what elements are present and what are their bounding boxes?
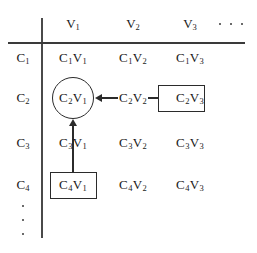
- cell-c1v3-vsub: 3: [199, 56, 204, 66]
- cell-c4v2-csub: 4: [128, 183, 133, 193]
- cell-c3v1-vsub: 1: [82, 141, 87, 151]
- row-ellipsis-dot-1: [22, 205, 24, 207]
- row-header-c1-label: C: [17, 50, 26, 65]
- cell-c4v2-c: C: [119, 177, 128, 192]
- cell-c1v3: C1V3: [176, 50, 204, 66]
- column-ellipsis-dot-1: [219, 23, 221, 25]
- cell-c1v2: C1V2: [119, 50, 147, 66]
- cell-c2v2: C2V2: [119, 90, 147, 106]
- row-header-c3: C3: [17, 135, 30, 151]
- cell-c3v1-csub: 3: [68, 141, 73, 151]
- cell-c1v3-v: V: [190, 50, 200, 65]
- cell-c3v3-vsub: 3: [199, 141, 204, 151]
- cell-c1v1-v: V: [73, 50, 83, 65]
- column-header-v2: V2: [126, 16, 140, 32]
- cell-c4v1-c: C: [59, 177, 68, 192]
- cell-c3v1: C3V1: [59, 135, 87, 151]
- row-header-c1: C1: [17, 50, 30, 66]
- arrow-c4v1-to-c2v1-head: [69, 119, 77, 126]
- cell-c2v3-v: V: [190, 90, 200, 105]
- arrow-c2v2-to-c2v1-shaft: [101, 97, 118, 99]
- cell-c1v1: C1V1: [59, 50, 87, 66]
- cell-c3v2: C3V2: [119, 135, 147, 151]
- cell-c1v2-c: C: [119, 50, 128, 65]
- cell-c4v2: C4V2: [119, 177, 147, 193]
- cell-c2v1: C2V1: [59, 90, 87, 106]
- row-ellipsis-dot-3: [22, 233, 24, 235]
- column-header-v3-label: V: [183, 16, 192, 31]
- cell-c4v1: C4V1: [59, 177, 87, 193]
- row-header-c2: C2: [17, 90, 30, 106]
- cell-c2v3-c: C: [176, 90, 185, 105]
- row-header-c2-label: C: [17, 90, 26, 105]
- cell-c1v2-csub: 1: [128, 56, 133, 66]
- cell-c4v3-v: V: [190, 177, 200, 192]
- vertical-divider: [41, 18, 43, 238]
- cell-c4v1-vsub: 1: [82, 183, 87, 193]
- column-ellipsis-dot-3: [241, 23, 243, 25]
- cell-c1v1-c: C: [59, 50, 68, 65]
- cell-c4v3: C4V3: [176, 177, 204, 193]
- cell-c4v2-vsub: 2: [142, 183, 147, 193]
- cell-c1v1-csub: 1: [68, 56, 73, 66]
- column-header-v2-label: V: [126, 16, 135, 31]
- cell-c2v2-vsub: 2: [142, 96, 147, 106]
- cell-c3v2-vsub: 2: [142, 141, 147, 151]
- cell-c3v2-c: C: [119, 135, 128, 150]
- row-header-c4-label: C: [17, 177, 26, 192]
- link-c2v3-to-c2v2: [148, 97, 158, 99]
- arrow-c2v2-to-c2v1-head: [95, 94, 102, 102]
- column-header-v1-sub: 1: [76, 22, 80, 32]
- cell-c1v3-c: C: [176, 50, 185, 65]
- cell-c4v1-v: V: [73, 177, 83, 192]
- column-header-v3: V3: [183, 16, 197, 32]
- row-header-c3-sub: 3: [25, 141, 29, 151]
- column-ellipsis-dot-2: [230, 23, 232, 25]
- cell-c1v1-vsub: 1: [82, 56, 87, 66]
- cell-c2v2-csub: 2: [128, 96, 133, 106]
- row-header-c3-label: C: [17, 135, 26, 150]
- row-header-c2-sub: 2: [25, 96, 29, 106]
- cell-c2v1-v: V: [73, 90, 83, 105]
- cell-c4v1-csub: 4: [68, 183, 73, 193]
- cell-c4v3-c: C: [176, 177, 185, 192]
- cell-c2v1-c: C: [59, 90, 68, 105]
- cell-c2v2-c: C: [119, 90, 128, 105]
- cell-c1v3-csub: 1: [185, 56, 190, 66]
- cell-c3v3: C3V3: [176, 135, 204, 151]
- cell-c3v3-v: V: [190, 135, 200, 150]
- row-header-c4: C4: [17, 177, 30, 193]
- table-diagram: V1 V2 V3 C1 C2 C3 C4 C1V1 C1V2: [0, 0, 257, 253]
- cell-c2v3: C2V3: [176, 90, 204, 106]
- cell-c3v1-c: C: [59, 135, 68, 150]
- horizontal-divider: [8, 42, 245, 44]
- row-ellipsis-dot-2: [22, 219, 24, 221]
- cell-c3v2-v: V: [133, 135, 143, 150]
- cell-c3v3-c: C: [176, 135, 185, 150]
- row-header-c1-sub: 1: [25, 56, 29, 66]
- column-header-v2-sub: 2: [136, 22, 140, 32]
- row-header-c4-sub: 4: [25, 183, 29, 193]
- column-header-v1-label: V: [66, 16, 75, 31]
- cell-c4v3-csub: 4: [185, 183, 190, 193]
- cell-c2v3-csub: 2: [185, 96, 190, 106]
- cell-c2v2-v: V: [133, 90, 143, 105]
- cell-c3v2-csub: 3: [128, 141, 133, 151]
- cell-c4v3-vsub: 3: [199, 183, 204, 193]
- cell-c3v1-v: V: [73, 135, 83, 150]
- cell-c3v3-csub: 3: [185, 141, 190, 151]
- column-header-v3-sub: 3: [193, 22, 197, 32]
- cell-c1v2-vsub: 2: [142, 56, 147, 66]
- cell-c2v1-csub: 2: [68, 96, 73, 106]
- cell-c2v3-vsub: 3: [199, 96, 204, 106]
- column-header-v1: V1: [66, 16, 80, 32]
- cell-c4v2-v: V: [133, 177, 143, 192]
- cell-c2v1-vsub: 1: [82, 96, 87, 106]
- cell-c1v2-v: V: [133, 50, 143, 65]
